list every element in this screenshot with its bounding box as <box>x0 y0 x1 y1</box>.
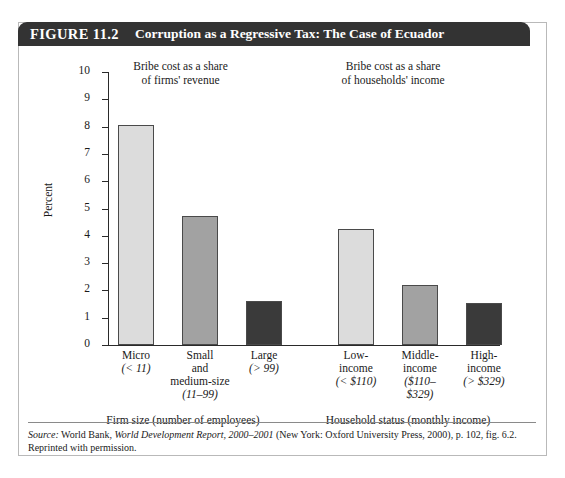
annotation-households: Bribe cost as a share of households' inc… <box>298 60 488 87</box>
y-tick-mark <box>102 290 108 291</box>
bar-0 <box>118 125 154 345</box>
y-tick-mark <box>102 209 108 210</box>
y-tick-mark <box>102 236 108 237</box>
source-prefix: Source: <box>28 429 59 440</box>
bar-5 <box>466 303 502 345</box>
y-tick-mark <box>102 72 108 73</box>
y-tick-mark <box>102 99 108 100</box>
category-label-5: High- income(> $329) <box>444 349 524 388</box>
source-divider <box>28 422 536 423</box>
source-text-a: World Bank, <box>59 429 115 440</box>
y-tick-mark <box>102 154 108 155</box>
y-tick-mark <box>102 181 108 182</box>
bar-1 <box>182 216 218 345</box>
figure-container: FIGURE 11.2 Corruption as a Regressive T… <box>0 0 565 478</box>
y-tick-mark <box>102 345 108 346</box>
source-note: Source: World Bank, World Development Re… <box>28 429 538 454</box>
bar-4 <box>402 285 438 345</box>
y-tick-mark <box>102 263 108 264</box>
annotation-firms: Bribe cost as a share of firms' revenue <box>93 60 268 87</box>
bar-2 <box>246 301 282 345</box>
source-text-b: (New York: Oxford University Press, 2000… <box>273 429 516 440</box>
category-name: Large <box>224 349 304 362</box>
group-label-household: Household status (monthly income) <box>283 414 533 426</box>
y-axis-line <box>108 72 109 345</box>
group-label-firm: Firm size (number of employees) <box>58 414 308 426</box>
chart-plot-area: Bribe cost as a share of firms' revenue … <box>18 46 547 421</box>
x-axis-line <box>108 345 500 346</box>
source-permission: Reprinted with permission. <box>28 442 538 455</box>
category-label-2: Large(> 99) <box>224 349 304 375</box>
figure-number: FIGURE 11.2 <box>30 26 119 43</box>
y-axis-title: Percent <box>42 150 54 250</box>
y-tick-mark <box>102 318 108 319</box>
bar-3 <box>338 229 374 345</box>
category-range: (> $329) <box>444 375 524 388</box>
category-range: (11–99) <box>160 388 240 401</box>
y-tick-mark <box>102 127 108 128</box>
category-name: High- income <box>444 349 524 375</box>
category-range: (> 99) <box>224 362 304 375</box>
figure-title: Corruption as a Regressive Tax: The Case… <box>135 26 444 42</box>
source-report-title: World Development Report, 2000–2001 <box>114 429 273 440</box>
figure-title-banner: FIGURE 11.2 Corruption as a Regressive T… <box>18 22 530 46</box>
